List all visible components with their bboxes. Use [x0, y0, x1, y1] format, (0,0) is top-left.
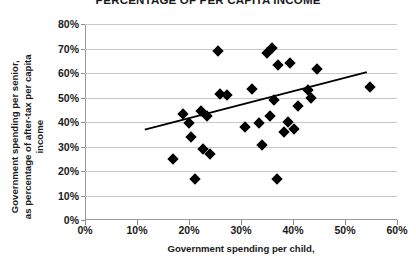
y-axis-title: Government spending per senior, as perce…	[9, 37, 47, 237]
y-tick-mark	[81, 147, 85, 148]
x-axis-title: Government spending per child,	[85, 243, 397, 254]
x-tick-mark	[241, 220, 242, 225]
x-tick-mark	[85, 220, 86, 225]
chart-title: PERCENTAGE OF PER CAPITA INCOME	[0, 0, 416, 6]
x-tick-label: 20%	[169, 224, 209, 236]
y-tick-mark	[81, 98, 85, 99]
x-tick-mark	[345, 220, 346, 225]
trendline-segment	[145, 72, 367, 130]
y-tick-mark	[81, 171, 85, 172]
y-tick-mark	[81, 196, 85, 197]
y-tick-label: 80%	[39, 18, 79, 30]
x-tick-label: 30%	[221, 224, 261, 236]
scatter-chart: PERCENTAGE OF PER CAPITA INCOME 0%10%20%…	[0, 0, 416, 260]
y-tick-mark	[81, 73, 85, 74]
y-tick-mark	[81, 49, 85, 50]
y-tick-mark	[81, 24, 85, 25]
x-tick-label: 40%	[273, 224, 313, 236]
x-tick-mark	[293, 220, 294, 225]
x-tick-mark	[397, 220, 398, 225]
y-axis-title-line1: Government spending per senior,	[9, 37, 22, 237]
x-tick-label: 0%	[65, 224, 105, 236]
x-tick-label: 10%	[117, 224, 157, 236]
x-tick-label: 60%	[377, 224, 416, 236]
y-tick-mark	[81, 122, 85, 123]
x-tick-mark	[189, 220, 190, 225]
x-tick-mark	[137, 220, 138, 225]
x-tick-label: 50%	[325, 224, 365, 236]
plot-area	[85, 24, 397, 220]
y-axis-title-line2: as percentage of after-tax per capita in…	[22, 37, 47, 237]
trendline	[85, 24, 397, 220]
